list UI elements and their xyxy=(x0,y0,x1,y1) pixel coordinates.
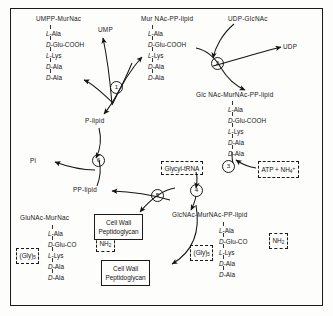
residue: L-Ala xyxy=(46,28,84,39)
residue: D-Ala xyxy=(219,269,247,280)
chain-umpp-murnac: L-Ala D-Glu-COOH L-Lys D-Ala D-Ala xyxy=(46,28,84,83)
chain-tick xyxy=(52,258,53,262)
residue: L-Ala xyxy=(228,104,266,115)
residue: L-Ala xyxy=(148,28,186,39)
label-murnac-pp-lipid: Mur NAc-PP-lipid xyxy=(141,16,193,22)
residue: L-Lys xyxy=(228,126,266,137)
cell-wall-2-line2: Peptidoglycan xyxy=(106,273,146,283)
label-glcnac-murnac-pp-lipid-low: GlcNAc-MurNAc-PP-lipid xyxy=(172,212,247,218)
glycyl-trna-label: Glycyl-tRNA xyxy=(165,165,200,172)
residue: L-Lys xyxy=(46,50,84,61)
box-gly5-left: (Gly)5 xyxy=(16,248,39,264)
conh2-left-subscript: 2 xyxy=(109,242,112,247)
chain-tick xyxy=(232,101,233,105)
label-glcnac-murnac-pp-lipid-mid: Glc NAc-MurNAc-PP-lipid xyxy=(196,92,273,98)
chain-tick xyxy=(50,25,51,29)
chain-tick xyxy=(52,225,53,229)
chain-tick xyxy=(232,134,233,138)
label-p-lipid: P-lipid xyxy=(85,118,105,124)
box-cell-wall-peptidoglycan-1: Cell Wall Peptidoglycan xyxy=(94,214,143,240)
residue: D-Ala xyxy=(148,72,186,83)
atp-nh4-superscript: + xyxy=(292,166,295,171)
label-glunac-murnac: GluNAc-MurNac xyxy=(20,215,69,221)
chain-murnac-pp-lipid: L-Ala D-Glu-COOH L-Lys D-Ala D-Ala xyxy=(148,28,186,83)
cell-wall-1-line2: Peptidoglycan xyxy=(99,227,139,237)
label-ump: UMP xyxy=(98,27,113,33)
residue: D-Glu-COOH xyxy=(228,115,266,126)
step-marker-6: 6 xyxy=(92,154,105,167)
chain-tick xyxy=(152,69,153,73)
step-marker-3: 3 xyxy=(222,160,235,173)
atp-nh4-label: ATP + NH xyxy=(262,166,290,173)
residue: D-Ala xyxy=(228,137,266,148)
residue: D-Ala xyxy=(48,272,76,283)
chain-tick xyxy=(152,58,153,62)
cell-wall-2-line1: Cell Wall xyxy=(106,264,146,274)
cell-wall-1-line1: Cell Wall xyxy=(99,218,139,228)
residue: D-Glu-COOH xyxy=(46,39,84,50)
residue: D-Ala xyxy=(46,61,84,72)
gly5-left-subscript: 5 xyxy=(33,254,36,259)
conh2-right-label: NH xyxy=(273,237,282,244)
box-glycyl-trna: Glycyl-tRNA xyxy=(161,161,203,175)
step-marker-2: 2 xyxy=(211,57,224,70)
residue: D-Glu-COOH xyxy=(148,39,186,50)
chain-tick xyxy=(232,123,233,127)
residue: L-Lys xyxy=(148,50,186,61)
step-marker-1: 1 xyxy=(110,81,123,94)
step-marker-5: 5 xyxy=(151,189,164,202)
chain-tick xyxy=(50,69,51,73)
residue: D-Ala xyxy=(228,148,266,159)
chain-tick xyxy=(223,266,224,270)
conh2-right-subscript: 2 xyxy=(282,239,285,244)
residue: D-Ala xyxy=(148,61,186,72)
chain-tick xyxy=(152,47,153,51)
chain-tick xyxy=(223,244,224,248)
gly5-right-subscript: 5 xyxy=(207,251,210,256)
chain-tick xyxy=(50,36,51,40)
chain-tick xyxy=(52,236,53,240)
gly5-right-label: (Gly) xyxy=(194,249,208,256)
label-pp-lipid: PP-lipid xyxy=(73,187,97,193)
label-udp: UDP xyxy=(283,44,297,50)
box-cell-wall-peptidoglycan-2: Cell Wall Peptidoglycan xyxy=(101,260,150,286)
chain-glcnac-murnac-mid: L-Ala D-Glu-COOH L-Lys D-Ala D-Ala xyxy=(228,104,266,159)
label-udp-glcnac: UDP-GlcNAc xyxy=(228,16,268,22)
box-atp-nh4: ATP + NH4+ xyxy=(258,161,299,178)
chain-tick xyxy=(50,47,51,51)
chain-tick xyxy=(232,145,233,149)
chain-tick xyxy=(50,58,51,62)
chain-tick xyxy=(152,25,153,29)
peptidoglycan-pathway-figure: UMPP-MurNac L-Ala D-Glu-COOH L-Lys D-Ala… xyxy=(0,0,333,316)
chain-tick xyxy=(52,247,53,251)
gly5-left-label: (Gly) xyxy=(20,252,34,259)
chain-tick xyxy=(223,255,224,259)
chain-tick xyxy=(152,36,153,40)
label-pi: Pi xyxy=(30,158,36,164)
residue: D-Ala xyxy=(46,72,84,83)
chain-tick xyxy=(232,112,233,116)
chain-tick xyxy=(52,269,53,273)
conh2-left-label: NH xyxy=(100,240,109,247)
label-umpp-murnac: UMPP-MurNac xyxy=(36,16,81,22)
box-gly5-right: (Gly)5 xyxy=(190,245,213,261)
box-conh2-right: NH2 xyxy=(269,233,288,249)
step-marker-4: 4 xyxy=(190,184,203,197)
chain-tick xyxy=(223,222,224,226)
chain-tick xyxy=(223,233,224,237)
